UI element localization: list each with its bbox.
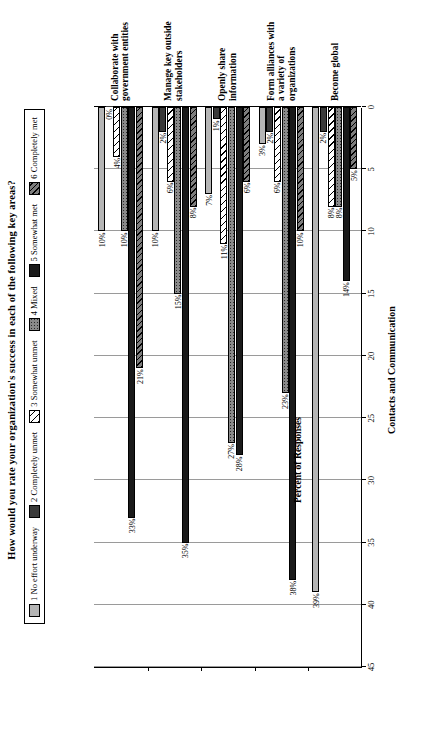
legend-swatch-dotted-gray-icon bbox=[29, 318, 40, 331]
bar[interactable]: 6% bbox=[167, 107, 174, 182]
bar[interactable]: 4% bbox=[113, 107, 120, 157]
bar[interactable]: 23% bbox=[282, 107, 289, 393]
bar[interactable]: 10% bbox=[121, 107, 128, 231]
legend-item-label: 1 No effort underway bbox=[30, 527, 39, 601]
legend-item-6[interactable]: 6 Completely met bbox=[29, 117, 40, 195]
legend-item-3[interactable]: 3 Somewhat unmet bbox=[29, 340, 40, 422]
bar-group: 39%2%8%8%14%5% bbox=[308, 108, 362, 667]
x-tick-label-15: 15 bbox=[366, 279, 376, 309]
bar-value-label: 10% bbox=[97, 232, 106, 247]
bar-value-label: 14% bbox=[342, 282, 351, 297]
bar[interactable]: 6% bbox=[274, 107, 281, 182]
bar-value-label: 39% bbox=[311, 593, 320, 608]
bar-group: 10%0%4%10%33%21% bbox=[94, 108, 148, 667]
legend-item-4[interactable]: 4 Mixed bbox=[29, 287, 40, 332]
bar-value-label: 5% bbox=[349, 170, 358, 181]
bar[interactable]: 0% bbox=[106, 106, 113, 107]
legend-item-label: 6 Completely met bbox=[30, 117, 39, 179]
bar[interactable]: 6% bbox=[243, 107, 250, 182]
bar[interactable]: 2% bbox=[320, 107, 327, 132]
x-tick-label-30: 30 bbox=[366, 465, 376, 495]
legend-item-5[interactable]: 5 Somewhat met bbox=[29, 204, 40, 278]
chart-figure: How would you rate your organization's s… bbox=[0, 0, 422, 740]
bar-group: 10%2%6%15%35%8% bbox=[148, 108, 202, 667]
legend-item-2[interactable]: 2 Completely unmet bbox=[29, 432, 40, 518]
legend-item-label: 4 Mixed bbox=[30, 287, 39, 316]
category-label-line: organizations bbox=[287, 0, 298, 101]
category-label-line: stakeholders bbox=[174, 0, 185, 101]
category-label-line: Form alliances with bbox=[266, 0, 277, 101]
category-separator bbox=[255, 667, 256, 671]
chart-legend: 1 No effort underway2 Completely unmet3 … bbox=[24, 109, 45, 624]
bar[interactable]: 15% bbox=[174, 107, 181, 294]
bar[interactable]: 10% bbox=[98, 107, 105, 231]
x-tick-label-40: 40 bbox=[366, 590, 376, 620]
x-tick-label-45: 45 bbox=[366, 652, 376, 682]
legend-swatch-black-icon bbox=[29, 265, 40, 278]
bar-group: 7%1%11%27%28%6% bbox=[201, 108, 255, 667]
legend-swatch-dark-gray-icon bbox=[29, 505, 40, 518]
bar[interactable]: 35% bbox=[182, 107, 189, 543]
bar[interactable]: 8% bbox=[190, 107, 197, 207]
category-label: Manage key outsidestakeholders bbox=[164, 0, 185, 101]
category-separator bbox=[308, 667, 309, 671]
category-label: Openly shareinformation bbox=[217, 0, 238, 101]
bar-value-label: 7% bbox=[204, 195, 213, 206]
category-separator bbox=[201, 667, 202, 671]
x-tick-label-5: 5 bbox=[366, 154, 376, 184]
category-label: Form alliances witha variety oforganizat… bbox=[266, 0, 298, 101]
x-tick-label-35: 35 bbox=[366, 528, 376, 558]
category-label: Become global bbox=[330, 0, 341, 101]
category-label-line: Manage key outside bbox=[164, 0, 175, 101]
legend-item-label: 3 Somewhat unmet bbox=[30, 340, 39, 406]
x-tick-label-0: 0 bbox=[366, 92, 376, 122]
bar-value-label: 3% bbox=[258, 145, 267, 156]
category-label-line: Become global bbox=[330, 0, 341, 101]
chart-footer-label: Contacts and Communication bbox=[386, 0, 397, 740]
bar-value-label: 21% bbox=[135, 369, 144, 384]
bar-value-label: 10% bbox=[151, 232, 160, 247]
plot-area: 45403530252015105010%0%4%10%33%21%Collab… bbox=[94, 108, 362, 668]
category-label-line: information bbox=[228, 0, 239, 101]
bar[interactable]: 27% bbox=[228, 107, 235, 443]
bar[interactable]: 21% bbox=[136, 107, 143, 368]
bar[interactable]: 39% bbox=[312, 107, 319, 592]
legend-item-label: 2 Completely unmet bbox=[30, 432, 39, 502]
x-tick-label-20: 20 bbox=[366, 341, 376, 371]
category-label: Collaborate withgovernment entities bbox=[110, 0, 131, 101]
bar-value-label: 33% bbox=[127, 519, 136, 534]
legend-swatch-light-gray-icon bbox=[29, 604, 40, 617]
bar[interactable]: 8% bbox=[328, 107, 335, 207]
legend-item-label: 5 Somewhat met bbox=[30, 204, 39, 262]
bar[interactable]: 2% bbox=[159, 107, 166, 132]
bar[interactable]: 33% bbox=[128, 107, 135, 518]
bar[interactable]: 5% bbox=[350, 107, 357, 169]
x-tick-label-25: 25 bbox=[366, 403, 376, 433]
x-tick-label-10: 10 bbox=[366, 216, 376, 246]
bar[interactable]: 1% bbox=[213, 107, 220, 119]
chart-title: How would you rate your organization's s… bbox=[6, 0, 17, 740]
legend-item-1[interactable]: 1 No effort underway bbox=[29, 527, 40, 617]
legend-swatch-diagonal-hatch-gray-icon bbox=[29, 182, 40, 195]
bar[interactable]: 10% bbox=[152, 107, 159, 231]
bar-value-label: 8% bbox=[189, 208, 198, 219]
category-label-line: Collaborate with bbox=[110, 0, 121, 101]
bar[interactable]: 14% bbox=[343, 107, 350, 281]
bar-value-label: 35% bbox=[181, 544, 190, 559]
x-axis-label: Percent of Responses bbox=[292, 180, 303, 740]
bar-value-label: 28% bbox=[235, 456, 244, 471]
legend-swatch-diagonal-hatch-white-icon bbox=[29, 410, 40, 423]
bar-value-label: 6% bbox=[242, 183, 251, 194]
bar[interactable]: 8% bbox=[335, 107, 342, 207]
bar[interactable]: 11% bbox=[220, 107, 227, 244]
bar[interactable]: 28% bbox=[236, 107, 243, 455]
category-label-line: Openly share bbox=[217, 0, 228, 101]
category-label-line: a variety of bbox=[276, 0, 287, 101]
category-separator bbox=[148, 667, 149, 671]
category-label-line: government entities bbox=[121, 0, 132, 101]
bar[interactable]: 2% bbox=[266, 107, 273, 132]
